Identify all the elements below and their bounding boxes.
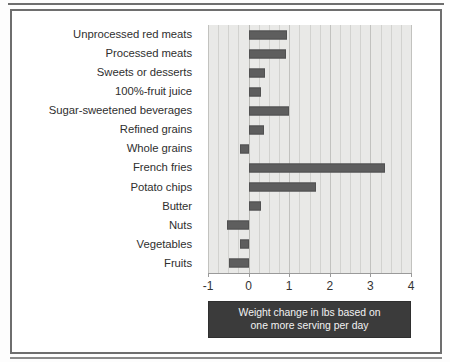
x-axis-tick-label: -1 [193, 279, 223, 293]
bar-row [208, 139, 411, 158]
bar-row [208, 197, 411, 216]
scan-frame-bottom-rule [10, 357, 442, 359]
bar-series [208, 25, 411, 273]
category-label: Vegetables [14, 235, 200, 254]
bar-row [208, 254, 411, 273]
x-axis-line [208, 273, 411, 274]
category-label: Fruits [14, 254, 200, 273]
caption-line-1: Weight change in lbs based on [211, 306, 408, 319]
bar-chart: Unprocessed red meats Processed meats Sw… [14, 13, 438, 350]
x-axis-tick-label: 0 [234, 279, 264, 293]
bar [240, 145, 248, 154]
bar [249, 202, 261, 211]
scan-frame-top-rule [8, 3, 444, 5]
x-axis-tick-label: 4 [396, 279, 426, 293]
bar [249, 87, 262, 96]
figure-page: Unprocessed red meats Processed meats Sw… [0, 0, 450, 362]
x-axis-tick-label: 3 [355, 279, 385, 293]
category-label: Unprocessed red meats [14, 25, 200, 44]
category-label: Sweets or desserts [14, 63, 200, 82]
category-label: Butter [14, 197, 200, 216]
bar-row [208, 159, 411, 178]
x-axis-tick [208, 273, 209, 277]
bar-row [208, 235, 411, 254]
bar [227, 221, 248, 230]
bar-row [208, 44, 411, 63]
category-label: Sugar-sweetened beverages [14, 101, 200, 120]
bar [249, 68, 266, 77]
bar-row [208, 25, 411, 44]
category-label: Processed meats [14, 44, 200, 63]
x-axis-tick [289, 273, 290, 277]
bar-row [208, 178, 411, 197]
category-label: Nuts [14, 216, 200, 235]
category-label: Whole grains [14, 139, 200, 158]
x-axis-tick-label: 1 [274, 279, 304, 293]
gridline-major [411, 25, 412, 273]
bar [249, 106, 290, 115]
bar [229, 259, 248, 268]
bar [249, 183, 316, 192]
chart-caption: Weight change in lbs based on one more s… [208, 301, 411, 338]
bar [249, 164, 385, 173]
bar [249, 125, 265, 134]
bar-row [208, 120, 411, 139]
bar-row [208, 63, 411, 82]
bar [249, 49, 287, 58]
category-label: Potato chips [14, 178, 200, 197]
bar-row [208, 216, 411, 235]
category-axis-labels: Unprocessed red meats Processed meats Sw… [14, 25, 200, 273]
x-axis-tick [330, 273, 331, 277]
x-axis-tick [411, 273, 412, 277]
bar-row [208, 82, 411, 101]
x-axis-tick-label: 2 [315, 279, 345, 293]
caption-line-2: one more serving per day [211, 319, 408, 332]
bar-row [208, 101, 411, 120]
category-label: Refined grains [14, 120, 200, 139]
x-axis-tick [370, 273, 371, 277]
category-label: French fries [14, 159, 200, 178]
x-axis-tick [249, 273, 250, 277]
bar [249, 30, 288, 39]
bar [240, 240, 249, 249]
plot-area [208, 25, 411, 273]
category-label: 100%-fruit juice [14, 82, 200, 101]
